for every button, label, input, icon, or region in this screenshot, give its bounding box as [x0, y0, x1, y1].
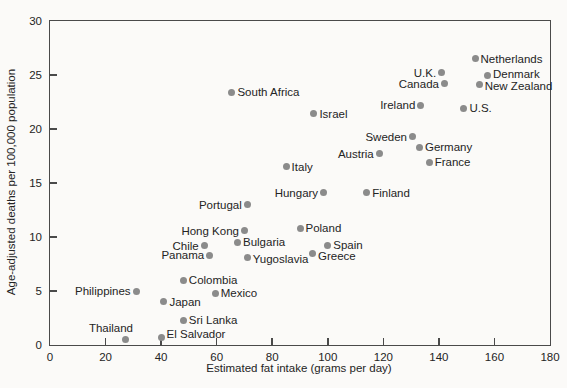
point-label-mexico: Mexico: [221, 287, 257, 300]
x-tick-label-40: 40: [155, 351, 168, 363]
point-u-s: [460, 105, 467, 112]
x-tick-label-140: 140: [429, 351, 448, 363]
x-tick-120: [383, 338, 385, 345]
point-mexico: [212, 290, 219, 297]
point-label-japan: Japan: [169, 295, 200, 308]
point-poland: [297, 225, 304, 232]
point-sri-lanka: [180, 317, 187, 324]
point-portugal: [244, 201, 251, 208]
point-label-south-africa: South Africa: [237, 86, 299, 99]
x-tick-label-20: 20: [99, 351, 112, 363]
point-label-italy: Italy: [292, 160, 313, 173]
x-tick-20: [105, 338, 107, 345]
point-south-africa: [228, 89, 235, 96]
point-label-greece: Greece: [318, 250, 356, 263]
point-new-zealand: [476, 81, 483, 88]
point-label-denmark: Denmark: [493, 68, 540, 81]
x-tick-label-160: 160: [485, 351, 504, 363]
point-label-israel: Israel: [319, 107, 347, 120]
x-tick-80: [271, 338, 273, 345]
point-label-portugal: Portugal: [199, 198, 242, 211]
point-netherlands: [472, 55, 479, 62]
fat-intake-mortality-scatter-figure: Age-adjusted deaths per 100,000 populati…: [0, 0, 567, 388]
x-axis-title: Estimated fat intake (grams per day): [206, 362, 391, 374]
point-label-france: France: [435, 156, 471, 169]
point-label-philippines: Philippines: [75, 285, 131, 298]
point-thailand: [122, 336, 129, 343]
point-u-k: [438, 69, 445, 76]
y-tick-label-20: 20: [6, 123, 42, 136]
point-finland: [363, 189, 370, 196]
point-label-new-zealand: New Zealand: [485, 79, 553, 92]
point-ireland: [417, 102, 424, 109]
point-philippines: [133, 288, 140, 295]
point-canada: [441, 80, 448, 87]
point-label-colombia: Colombia: [189, 274, 238, 287]
x-tick-160: [494, 338, 496, 345]
point-label-u-k: U.K.: [414, 66, 436, 79]
point-label-hong-kong: Hong Kong: [181, 224, 239, 237]
point-label-netherlands: Netherlands: [481, 52, 543, 65]
point-yugoslavia: [244, 254, 251, 261]
y-tick-10: [50, 236, 57, 238]
point-denmark: [484, 72, 491, 79]
point-label-sri-lanka: Sri Lanka: [189, 314, 238, 327]
point-france: [426, 159, 433, 166]
point-colombia: [180, 277, 187, 284]
point-label-bulgaria: Bulgaria: [243, 236, 285, 249]
point-el-salvador: [158, 334, 165, 341]
point-label-ireland: Ireland: [380, 99, 415, 112]
point-label-spain: Spain: [333, 238, 362, 251]
y-tick-label-5: 5: [6, 285, 42, 298]
point-bulgaria: [234, 239, 241, 246]
point-label-austria: Austria: [338, 147, 374, 160]
plot-area: 020406080100120140160180051015202530Thai…: [49, 20, 551, 346]
point-label-el-salvador: El Salvador: [167, 328, 226, 341]
point-hong-kong: [241, 227, 248, 234]
y-tick-label-15: 15: [6, 177, 42, 190]
point-label-u-s: U.S.: [469, 102, 491, 115]
point-label-thailand: Thailand: [89, 322, 133, 335]
point-hungary: [320, 189, 327, 196]
y-tick-label-0: 0: [6, 339, 42, 352]
point-label-hungary: Hungary: [275, 186, 318, 199]
y-tick-25: [50, 74, 57, 76]
y-tick-label-10: 10: [6, 231, 42, 244]
point-chile: [201, 242, 208, 249]
x-tick-100: [327, 338, 329, 345]
point-label-chile: Chile: [172, 239, 198, 252]
y-tick-label-25: 25: [6, 69, 42, 82]
point-greece: [309, 250, 316, 257]
point-spain: [324, 242, 331, 249]
point-label-sweden: Sweden: [365, 130, 407, 143]
point-italy: [283, 163, 290, 170]
point-sweden: [409, 133, 416, 140]
y-tick-15: [50, 182, 57, 184]
y-tick-label-30: 30: [6, 15, 42, 28]
point-label-germany: Germany: [425, 141, 472, 154]
x-tick-140: [438, 338, 440, 345]
point-label-yugoslavia: Yugoslavia: [253, 252, 309, 265]
point-japan: [160, 298, 167, 305]
y-tick-5: [50, 290, 57, 292]
y-tick-20: [50, 128, 57, 130]
point-label-poland: Poland: [306, 222, 342, 235]
point-germany: [416, 144, 423, 151]
x-tick-label-0: 0: [47, 351, 53, 363]
point-israel: [310, 110, 317, 117]
point-panama: [206, 252, 213, 259]
point-label-finland: Finland: [372, 186, 410, 199]
x-tick-label-180: 180: [540, 351, 559, 363]
point-austria: [376, 150, 383, 157]
